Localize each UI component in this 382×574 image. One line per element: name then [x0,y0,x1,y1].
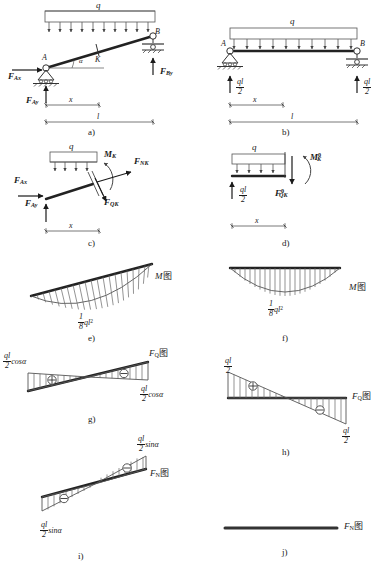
panel-h-left-value: ql2 [224,357,232,375]
panel-a-dim-x: x [69,96,73,104]
panel-f-graphics [230,268,340,296]
panel-b-point-a: A [221,40,226,48]
panel-c-moment-k: MK [104,150,116,159]
panel-i-tag: i) [78,551,84,561]
panel-b-dim-l: l [291,113,293,121]
panel-a-point-b: B [155,28,160,36]
panel-c-dim-x: x [69,222,73,230]
panel-a-tag: a) [88,127,95,137]
panel-b-point-b: B [360,40,365,48]
panel-a-reaction-ay: FAy [26,96,38,105]
panel-i-top-value: ql2sinα [137,435,159,453]
panel-f-peak-value: 18ql2 [268,300,283,318]
panel-i-diagram-name: FN图 [150,469,169,478]
panel-h-tag: h) [282,447,290,457]
panel-b-reaction-left: ql2 [236,78,244,96]
panel-e-diagram-name: M图 [155,272,172,281]
panel-c-axial-k: FNK [134,157,149,166]
panel-b-tag: b) [282,127,290,137]
panel-a-dim-l: l [97,113,99,121]
panel-d-moment-k0: M0K [310,152,321,162]
panel-c-graphics [18,152,131,231]
panel-c-load-label: q [69,142,74,151]
panel-h-diagram-name: FQ图 [352,392,371,401]
panel-b-dim-x: x [253,96,257,104]
panel-a-load-label: q [96,1,101,10]
panel-b-load-label: q [290,17,295,26]
panel-j-diagram-name: FN图 [344,522,363,531]
panel-a-point-a: A [42,54,47,62]
panel-j-tag: j) [282,547,288,557]
panel-c-reaction-ax: FAx [14,176,27,185]
figure-canvas: q A B K α FAx FAy FBy x l a) q A B ql2 q… [0,0,382,574]
panel-g-tag: g) [88,414,96,424]
panel-g-diagram-name: FQ图 [149,349,168,358]
panel-h-graphics [228,372,346,424]
panel-d-load-label: q [252,143,257,152]
panel-c-tag: c) [88,238,95,248]
panel-h-right-value: ql2 [342,427,350,445]
panel-e-tag: e) [88,333,95,343]
panel-e-peak-value: 18ql2 [78,313,93,331]
panel-g-left-value: ql2cosα [3,352,26,370]
panel-d-shear-k0: F0QK [275,188,288,198]
panel-f-diagram-name: M图 [349,283,366,292]
panel-b-reaction-right: ql2 [363,78,371,96]
panel-d-dim-x: x [255,217,259,225]
panel-g-graphics [28,362,148,391]
panel-i-bottom-value: ql2sinα [40,521,62,539]
panel-a-angle-label: α [79,58,83,65]
panel-a-point-k: K [95,56,100,64]
panel-e-graphics [31,264,152,310]
panel-g-right-value: ql2cosα [140,385,163,403]
panel-b-graphics [217,28,368,122]
figure-vector [0,0,382,574]
panel-d-tag: d) [282,238,290,248]
panel-a-reaction-ax: FAx [8,72,21,81]
panel-d-reaction: ql2 [239,186,247,204]
panel-f-tag: f) [282,333,288,343]
panel-c-shear-k: FQK [104,198,119,207]
panel-a-reaction-by: FBy [160,67,173,76]
panel-i-graphics [42,456,146,511]
panel-c-reaction-ay: FAy [25,199,37,208]
